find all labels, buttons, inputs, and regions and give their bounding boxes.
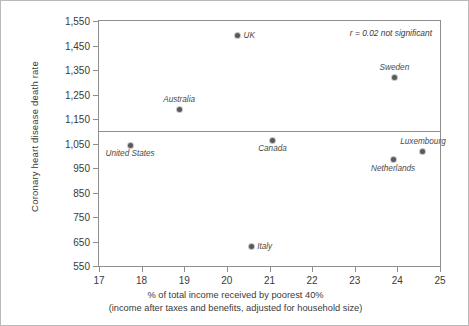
y-axis-tick-label: 1,150 xyxy=(65,114,90,125)
data-point-label: Australia xyxy=(163,95,195,104)
y-axis-tick xyxy=(93,95,99,96)
data-point[interactable] xyxy=(128,143,133,148)
data-point[interactable] xyxy=(392,75,397,80)
x-axis-tick-label: 17 xyxy=(93,275,104,286)
y-axis-tick-label: 1,350 xyxy=(65,65,90,76)
x-axis-title-line2: (income after taxes and benefits, adjust… xyxy=(1,302,469,315)
y-axis-tick-label: 1,250 xyxy=(65,89,90,100)
x-axis-tick xyxy=(397,266,398,272)
x-axis-tick-label: 18 xyxy=(136,275,147,286)
x-axis-title: % of total income received by poorest 40… xyxy=(1,289,469,314)
y-axis-tick xyxy=(93,46,99,47)
y-axis-tick xyxy=(93,217,99,218)
x-axis-tick xyxy=(270,266,271,272)
y-axis-tick-label: 850 xyxy=(73,187,90,198)
x-axis-tick-label: 22 xyxy=(307,275,318,286)
y-axis-tick xyxy=(93,119,99,120)
data-point-label: Luxembourg xyxy=(400,137,446,146)
y-axis-tick-label: 550 xyxy=(73,261,90,272)
data-point[interactable] xyxy=(235,33,240,38)
x-axis-tick-label: 19 xyxy=(179,275,190,286)
data-point-label: UK xyxy=(244,31,255,40)
y-axis-tick xyxy=(93,242,99,243)
correlation-annotation: r = 0.02 not significant xyxy=(350,28,432,38)
data-point[interactable] xyxy=(249,244,254,249)
data-point-label: Italy xyxy=(257,242,272,251)
data-point-label: Sweden xyxy=(380,63,410,72)
horizontal-divider-line xyxy=(99,131,440,132)
data-point-label: United States xyxy=(106,149,155,158)
x-axis-tick xyxy=(355,266,356,272)
y-axis-tick-label: 1,050 xyxy=(65,138,90,149)
x-axis-tick xyxy=(440,266,441,272)
y-axis-tick-label: 750 xyxy=(73,212,90,223)
y-axis-tick xyxy=(93,21,99,22)
y-axis-tick xyxy=(93,168,99,169)
chart-figure: Coronary heart disease death rate r = 0.… xyxy=(0,0,469,326)
x-axis-tick-label: 24 xyxy=(392,275,403,286)
plot-area: r = 0.02 not significant 550650750850950… xyxy=(98,20,441,267)
x-axis-tick-label: 25 xyxy=(434,275,445,286)
x-axis-tick xyxy=(99,266,100,272)
data-point-label: Canada xyxy=(258,144,287,153)
x-axis-tick xyxy=(184,266,185,272)
y-axis-tick xyxy=(93,70,99,71)
y-axis-tick-label: 1,550 xyxy=(65,16,90,27)
x-axis-title-line1: % of total income received by poorest 40… xyxy=(147,290,323,300)
y-axis-tick xyxy=(93,193,99,194)
x-axis-tick xyxy=(312,266,313,272)
y-axis-tick-label: 950 xyxy=(73,163,90,174)
x-axis-tick-label: 21 xyxy=(264,275,275,286)
data-point[interactable] xyxy=(391,157,396,162)
y-axis-tick-label: 1,450 xyxy=(65,40,90,51)
data-point[interactable] xyxy=(177,107,182,112)
x-axis-tick-label: 23 xyxy=(349,275,360,286)
data-point[interactable] xyxy=(270,138,275,143)
x-axis-tick xyxy=(142,266,143,272)
y-axis-tick-label: 650 xyxy=(73,236,90,247)
y-axis-title: Coronary heart disease death rate xyxy=(29,22,40,252)
data-point-label: Netherlands xyxy=(371,164,415,173)
x-axis-tick xyxy=(227,266,228,272)
x-axis-tick-label: 20 xyxy=(221,275,232,286)
data-point[interactable] xyxy=(420,149,425,154)
y-axis-tick xyxy=(93,144,99,145)
